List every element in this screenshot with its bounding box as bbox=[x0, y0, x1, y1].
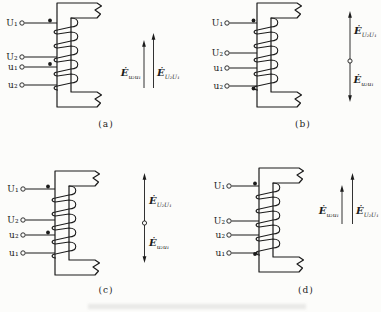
polarity-dot-U1 bbox=[252, 19, 256, 23]
faded-caption-remnant bbox=[88, 304, 306, 309]
figure-transformer-polarity: U₁ U₂ u₁ u₂ Ėu₂u₁ ĖU₂U₁ (a) bbox=[0, 0, 381, 312]
terminal-U2: U₂ bbox=[214, 216, 259, 226]
terminal-circle bbox=[225, 21, 229, 25]
terminal-circle bbox=[227, 233, 231, 237]
terminal-u2: u₂ bbox=[8, 80, 57, 90]
terminal-label: u₂ bbox=[214, 81, 224, 91]
terminal-u2: u₂ bbox=[214, 81, 257, 91]
arrow-up-icon bbox=[340, 185, 344, 192]
panel-b: U₁ U₂ u₁ u₂ ĖU₂U₁ Ėu₂u₁ (b) bbox=[190, 0, 381, 156]
emf-label-hv: ĖU₂U₁ bbox=[156, 66, 180, 80]
terminal-U2: U₂ bbox=[212, 48, 257, 58]
terminal-label: U₁ bbox=[214, 181, 225, 191]
polarity-dot-u2 bbox=[252, 87, 256, 91]
emf-label-hv: ĖU₂U₁ bbox=[353, 24, 377, 38]
transformer-core bbox=[254, 3, 301, 107]
arrow-up-icon bbox=[152, 33, 156, 40]
terminal-circle bbox=[21, 251, 25, 255]
terminal-label: U₁ bbox=[6, 18, 17, 28]
polarity-dot-U1 bbox=[48, 19, 52, 23]
terminal-label: U₂ bbox=[7, 215, 19, 225]
arrow-down-icon bbox=[348, 95, 352, 102]
arrow-up-icon bbox=[143, 173, 147, 180]
transformer-core bbox=[256, 168, 303, 272]
emf-phasors: Ėu₂u₁ ĖU₂U₁ bbox=[318, 173, 379, 224]
panel-caption: (b) bbox=[295, 119, 311, 129]
terminal-circle bbox=[20, 21, 24, 25]
terminal-U2: U₂ bbox=[7, 215, 55, 225]
transformer-core bbox=[52, 171, 99, 275]
emf-label-lv: Ėu₂u₁ bbox=[353, 73, 374, 87]
terminal-circle bbox=[225, 84, 229, 88]
terminal-u1: u₁ bbox=[214, 63, 257, 73]
panel-c: U₁ U₂ u₂ u₁ ĖU₂U₁ Ėu₂u₁ (c) bbox=[0, 156, 190, 312]
terminal-u2: u₂ bbox=[216, 230, 259, 240]
terminal-circle bbox=[227, 184, 231, 188]
polarity-dot-U1 bbox=[253, 182, 257, 186]
terminal-circle bbox=[21, 218, 25, 222]
midpoint-circle bbox=[348, 59, 352, 63]
terminal-circle bbox=[20, 65, 24, 69]
emf-phasors: Ėu₂u₁ ĖU₂U₁ bbox=[120, 33, 180, 88]
terminal-label: U₁ bbox=[212, 18, 223, 28]
terminal-label: u₂ bbox=[8, 80, 18, 90]
polarity-dot-u1 bbox=[253, 252, 257, 256]
panel-caption: (c) bbox=[98, 285, 113, 295]
terminal-label: U₂ bbox=[6, 52, 18, 62]
terminal-label: U₂ bbox=[214, 216, 226, 226]
terminal-label: u₁ bbox=[214, 63, 223, 73]
polarity-dot-u1 bbox=[48, 62, 52, 66]
emf-label-hv: ĖU₂U₁ bbox=[148, 194, 172, 208]
terminal-u1: u₁ bbox=[9, 248, 55, 258]
terminal-U2: U₂ bbox=[6, 52, 57, 62]
terminal-circle bbox=[227, 219, 231, 223]
panel-d: U₁ U₂ u₂ u₁ Ėu₂u₁ ĖU₂U₁ (d) bbox=[190, 156, 381, 312]
terminal-label: u₂ bbox=[216, 230, 226, 240]
panel-a: U₁ U₂ u₁ u₂ Ėu₂u₁ ĖU₂U₁ (a) bbox=[0, 0, 190, 156]
polarity-dot-u2 bbox=[46, 231, 50, 235]
terminal-label: u₂ bbox=[9, 230, 19, 240]
terminal-label: u₁ bbox=[216, 248, 225, 258]
terminal-label: u₁ bbox=[8, 62, 17, 72]
transformer-core bbox=[54, 3, 101, 107]
terminal-label: U₁ bbox=[7, 184, 18, 194]
terminal-circle bbox=[21, 233, 25, 237]
emf-label-hv: ĖU₂U₁ bbox=[355, 204, 379, 218]
arrow-up-icon bbox=[351, 173, 355, 180]
terminal-label: U₂ bbox=[212, 48, 224, 58]
polarity-dot-U1 bbox=[46, 185, 50, 189]
emf-phasors: ĖU₂U₁ Ėu₂u₁ bbox=[348, 11, 377, 102]
terminal-circle bbox=[225, 66, 229, 70]
terminal-circle bbox=[20, 83, 24, 87]
terminal-u1: u₁ bbox=[216, 248, 259, 258]
terminal-circle bbox=[225, 51, 229, 55]
arrow-up-icon bbox=[142, 40, 146, 47]
terminal-circle bbox=[227, 251, 231, 255]
arrow-down-icon bbox=[143, 256, 147, 263]
terminal-circle bbox=[20, 55, 24, 59]
midpoint-circle bbox=[142, 221, 146, 225]
terminal-label: u₁ bbox=[9, 248, 18, 258]
terminal-circle bbox=[21, 187, 25, 191]
panel-caption: (d) bbox=[298, 285, 314, 295]
emf-phasors: ĖU₂U₁ Ėu₂u₁ bbox=[142, 173, 171, 263]
panel-caption: (a) bbox=[98, 119, 113, 129]
terminal-U1: U₁ bbox=[212, 18, 257, 28]
emf-label-lv: Ėu₂u₁ bbox=[148, 236, 169, 250]
emf-label-lv: Ėu₂u₁ bbox=[120, 66, 141, 80]
emf-label-lv: Ėu₂u₁ bbox=[318, 204, 339, 218]
arrow-up-icon bbox=[348, 11, 352, 18]
terminal-U1: U₁ bbox=[214, 181, 259, 191]
